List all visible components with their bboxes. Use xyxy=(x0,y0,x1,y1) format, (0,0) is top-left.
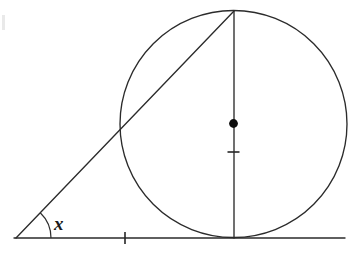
angle-x-label: x xyxy=(54,214,64,233)
scan-edge-artifact xyxy=(2,15,5,30)
geometry-diagram: x xyxy=(0,0,358,264)
circle-center-point xyxy=(229,119,238,128)
